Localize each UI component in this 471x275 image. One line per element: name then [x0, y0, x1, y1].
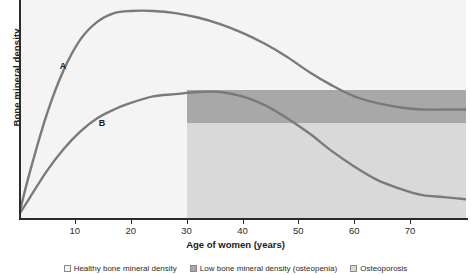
curve-b-line — [19, 92, 466, 215]
x-tick-70 — [410, 219, 411, 224]
x-tick-label-60: 60 — [339, 225, 369, 236]
curve-label-a: A — [60, 61, 67, 71]
x-tick-10 — [75, 219, 76, 224]
curve-label-b: B — [99, 118, 106, 128]
legend-item-1[interactable]: Low bone mineral density (osteopenia) — [190, 263, 337, 274]
x-tick-label-70: 70 — [395, 225, 425, 236]
legend-item-2[interactable]: Osteoporosis — [350, 263, 407, 274]
x-tick-label-20: 20 — [116, 225, 146, 236]
legend: Healthy bone mineral densityLow bone min… — [0, 263, 471, 275]
x-tick-30 — [187, 219, 188, 224]
x-tick-label-40: 40 — [228, 225, 258, 236]
x-tick-20 — [131, 219, 132, 224]
legend-label-0: Healthy bone mineral density — [74, 263, 177, 274]
curve-a-line — [19, 11, 466, 215]
x-tick-label-30: 30 — [172, 225, 202, 236]
y-axis-line — [19, 0, 21, 219]
x-tick-60 — [354, 219, 355, 224]
bone-mineral-density-chart: Bone mineral density A B 10203040506070 … — [0, 0, 471, 275]
x-axis-title: Age of women (years) — [0, 239, 471, 250]
legend-swatch-icon-0 — [64, 265, 71, 272]
legend-label-1: Low bone mineral density (osteopenia) — [200, 263, 337, 274]
legend-swatch-icon-1 — [190, 265, 197, 272]
legend-label-2: Osteoporosis — [360, 263, 407, 274]
x-tick-50 — [298, 219, 299, 224]
legend-item-0[interactable]: Healthy bone mineral density — [64, 263, 177, 274]
x-tick-label-10: 10 — [60, 225, 90, 236]
legend-swatch-icon-2 — [350, 265, 357, 272]
x-tick-40 — [243, 219, 244, 224]
curves-svg — [19, 0, 466, 219]
plot-area — [19, 0, 466, 219]
x-axis-line — [19, 218, 468, 220]
x-tick-label-50: 50 — [283, 225, 313, 236]
